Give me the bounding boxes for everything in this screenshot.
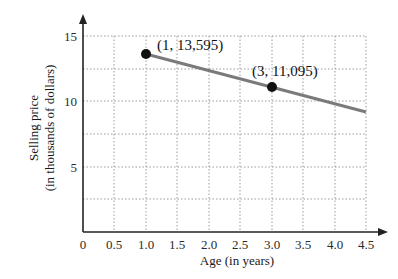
x-axis-label: Age (in years) — [200, 253, 274, 268]
svg-text:4.5: 4.5 — [358, 237, 374, 252]
chart: (1, 13,595) (3, 11,095) 0 0.5 1.0 1.5 2.… — [0, 0, 398, 279]
svg-text:4.0: 4.0 — [327, 237, 343, 252]
data-point — [267, 82, 277, 92]
svg-text:3.0: 3.0 — [264, 237, 280, 252]
grid — [83, 36, 366, 232]
y-axis-arrow-icon — [79, 14, 87, 24]
point-label: (3, 11,095) — [252, 63, 318, 80]
svg-text:1.5: 1.5 — [169, 237, 185, 252]
x-axis-arrow-icon — [378, 228, 388, 236]
data-point — [141, 49, 151, 59]
svg-text:1.0: 1.0 — [138, 237, 154, 252]
svg-text:10: 10 — [64, 94, 77, 109]
point-label: (1, 13,595) — [157, 37, 223, 54]
svg-text:5: 5 — [71, 160, 78, 175]
x-tick-labels: 0 0.5 1.0 1.5 2.0 2.5 3.0 3.5 4.0 4.5 — [80, 237, 374, 252]
y-tick-labels: 5 10 15 — [64, 29, 77, 175]
y-axis-label-line2: (in thousands of dollars) — [42, 65, 57, 192]
svg-text:0: 0 — [80, 237, 87, 252]
svg-text:2.0: 2.0 — [201, 237, 217, 252]
y-axis-label-line1: Selling price — [26, 95, 41, 161]
svg-text:2.5: 2.5 — [232, 237, 248, 252]
svg-text:15: 15 — [64, 29, 77, 44]
svg-text:3.5: 3.5 — [295, 237, 311, 252]
svg-text:0.5: 0.5 — [106, 237, 122, 252]
